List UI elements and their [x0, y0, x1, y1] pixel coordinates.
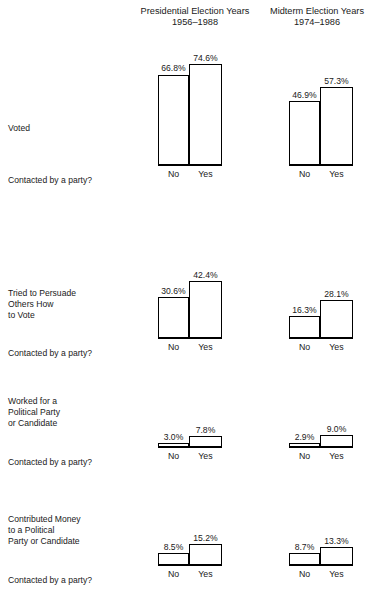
row-label-3-line-2: Political Party [8, 407, 126, 418]
bar-value-label-presidential-yes-row-3: 7.8% [181, 425, 230, 435]
bar-value-label-midterm-yes-row-3: 9.0% [312, 424, 361, 434]
category-label-presidential-no-row-4: No [158, 569, 189, 580]
bar-group-presidential-row-4: 8.5%No15.2%Yes [158, 445, 222, 567]
baseline-axis [158, 165, 222, 166]
bar-value-label-presidential-yes-row-4: 15.2% [181, 533, 230, 543]
row-label-3-line-1: Worked for a [8, 396, 126, 407]
row-label-4-line-2: to a Political [8, 525, 126, 536]
bar-midterm-no-row-1 [289, 101, 320, 165]
row-label-3: Worked for aPolitical Partyor Candidate [8, 396, 126, 430]
bar-value-label-midterm-yes-row-2: 28.1% [312, 289, 361, 299]
column-header-presidential: Presidential Election Years 1956–1988 [120, 6, 270, 29]
bar-midterm-yes-row-1 [320, 87, 353, 165]
row-label-4-line-3: Party or Candidate [8, 536, 126, 547]
row-label-4: Contributed Moneyto a PoliticalParty or … [8, 514, 126, 548]
category-label-presidential-yes-row-1: Yes [189, 169, 222, 180]
column-header-presidential-line2: 1956–1988 [120, 17, 270, 28]
category-label-midterm-yes-row-4: Yes [320, 569, 353, 580]
column-header-midterm-line1: Midterm Election Years [252, 6, 382, 17]
category-label-midterm-no-row-1: No [289, 169, 320, 180]
bar-value-label-presidential-yes-row-1: 74.6% [181, 53, 230, 63]
bar-value-label-midterm-yes-row-4: 13.3% [312, 536, 361, 546]
row-label-3-line-3: or Candidate [8, 418, 126, 429]
row-label-2-line-1: Tried to Persuade [8, 288, 126, 299]
category-label-midterm-no-row-4: No [289, 569, 320, 580]
category-label-presidential-yes-row-4: Yes [189, 569, 222, 580]
bar-group-midterm-row-3: 2.9%No9.0%Yes [289, 327, 353, 449]
baseline-axis [158, 565, 222, 566]
axis-question-3: Contacted by a party? [8, 457, 92, 468]
row-label-2-line-3: to Vote [8, 310, 126, 321]
baseline-axis [289, 565, 353, 566]
bar-group-midterm-row-1: 46.9%No57.3%Yes [289, 45, 353, 167]
bar-group-midterm-row-2: 16.3%No28.1%Yes [289, 218, 353, 340]
bar-group-presidential-row-1: 66.8%No74.6%Yes [158, 45, 222, 167]
survey-bar-chart-figure: Presidential Election Years 1956–1988 Mi… [0, 0, 382, 596]
bar-value-label-midterm-yes-row-1: 57.3% [312, 76, 361, 86]
axis-question-1: Contacted by a party? [8, 175, 92, 186]
bar-presidential-yes-row-4 [189, 544, 222, 565]
bar-presidential-yes-row-1 [189, 64, 222, 165]
bar-value-label-presidential-yes-row-2: 42.4% [181, 270, 230, 280]
category-label-midterm-yes-row-1: Yes [320, 169, 353, 180]
category-label-presidential-no-row-1: No [158, 169, 189, 180]
bar-group-presidential-row-2: 30.6%No42.4%Yes [158, 218, 222, 340]
row-label-1: Voted [8, 123, 126, 134]
bar-group-midterm-row-4: 8.7%No13.3%Yes [289, 445, 353, 567]
axis-question-2: Contacted by a party? [8, 348, 92, 359]
column-header-midterm-line2: 1974–1986 [252, 17, 382, 28]
row-label-2-line-2: Others How [8, 299, 126, 310]
bar-midterm-no-row-4 [289, 553, 320, 565]
bar-presidential-no-row-4 [158, 553, 189, 565]
bar-group-presidential-row-3: 3.0%No7.8%Yes [158, 327, 222, 449]
row-label-1-line-1: Voted [8, 123, 126, 134]
column-header-presidential-line1: Presidential Election Years [120, 6, 270, 17]
axis-question-4: Contacted by a party? [8, 575, 92, 586]
column-header-midterm: Midterm Election Years 1974–1986 [252, 6, 382, 29]
bar-presidential-no-row-1 [158, 75, 189, 166]
bar-midterm-yes-row-4 [320, 547, 353, 565]
baseline-axis [289, 165, 353, 166]
row-label-4-line-1: Contributed Money [8, 514, 126, 525]
row-label-2: Tried to PersuadeOthers Howto Vote [8, 288, 126, 322]
